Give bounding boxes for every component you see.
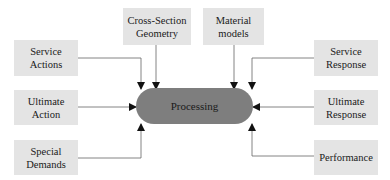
box-label-line: Response — [326, 109, 366, 120]
ultimate-response-box: UltimateResponse — [314, 90, 378, 125]
box-label-line: Service — [30, 46, 62, 57]
box-label-line: Demands — [26, 159, 66, 170]
box-label-line: Response — [326, 59, 366, 70]
box-label-line: Action — [32, 109, 61, 120]
box-label-line: models — [218, 28, 248, 39]
box-label-line: Performance — [319, 152, 373, 163]
performance-box: Performance — [314, 140, 378, 175]
box-label-line: Cross-Section — [128, 15, 187, 26]
special-demands-box: SpecialDemands — [14, 140, 78, 175]
box-label-line: Actions — [30, 59, 63, 70]
service-actions-box: ServiceActions — [14, 40, 78, 76]
processing-node: Processing — [136, 88, 253, 124]
box-label-line: Special — [31, 146, 62, 157]
cross-section-geometry-box: Cross-SectionGeometry — [123, 8, 191, 45]
material-models-box: Materialmodels — [203, 8, 264, 45]
ultimate-action-box: UltimateAction — [14, 90, 78, 125]
processing-label: Processing — [171, 100, 219, 112]
box-label-line: Ultimate — [28, 96, 65, 107]
box-label-line: Geometry — [136, 28, 178, 39]
box-label-line: Material — [216, 15, 252, 26]
box-label-line: Ultimate — [328, 96, 365, 107]
service-response-box: ServiceResponse — [314, 40, 378, 76]
box-label-line: Service — [330, 46, 362, 57]
